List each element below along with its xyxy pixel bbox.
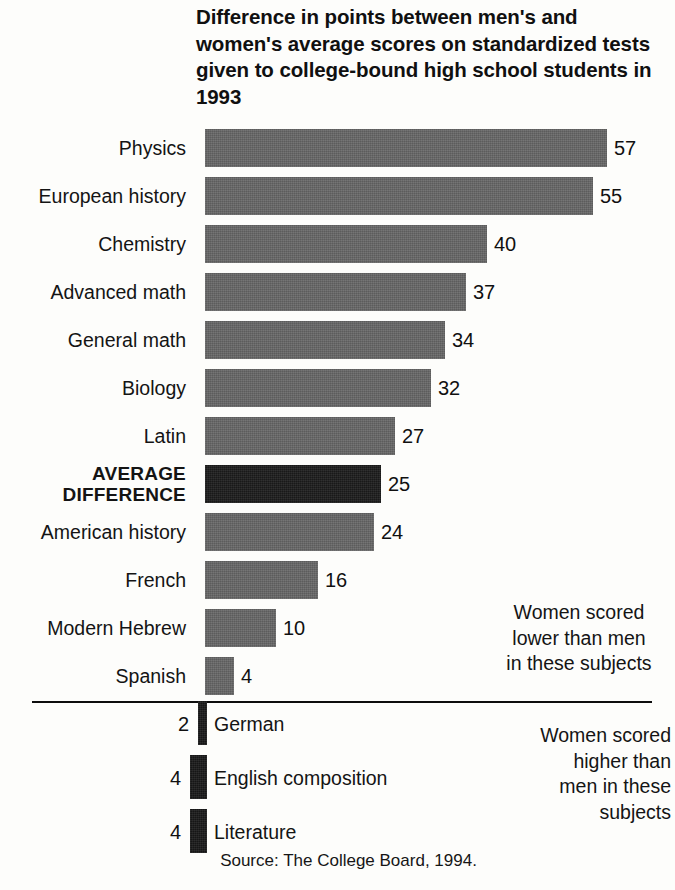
bar-advanced-math [205,273,466,311]
bar-label-general-math: General math [0,316,196,364]
bar-label-average-difference: AVERAGE DIFFERENCE [0,460,196,508]
chart-row-biology: Biology 32 [0,364,675,412]
bar-label-average-difference-line1: AVERAGE [92,463,186,484]
bar-value-general-math: 34 [452,316,474,364]
page-title: Difference in points between men's and w… [196,4,666,110]
annotation-women-scored-higher: Women scored higher than men in these su… [487,723,671,825]
chart-row-chemistry: Chemistry 40 [0,220,675,268]
bar-label-american-history: American history [0,508,196,556]
bar-physics [205,129,607,167]
bar-value-biology: 32 [438,364,460,412]
bar-value-advanced-math: 37 [473,268,495,316]
bar-label-english-composition: English composition [214,755,387,801]
bar-label-modern-hebrew: Modern Hebrew [0,604,196,652]
annotation-higher-line4: subjects [487,800,671,826]
bar-modern-hebrew [205,609,276,647]
bar-label-european-history: European history [0,172,196,220]
bar-value-spanish: 4 [241,652,252,700]
bar-label-literature: Literature [214,809,296,855]
annotation-lower-line3: in these subjects [487,651,671,677]
bar-label-latin: Latin [0,412,196,460]
bar-label-physics: Physics [0,124,196,172]
bar-label-spanish: Spanish [0,652,196,700]
bar-label-french: French [0,556,196,604]
bar-value-european-history: 55 [600,172,622,220]
bar-label-advanced-math: Advanced math [0,268,196,316]
bar-value-german: 2 [138,701,198,747]
bar-german [198,701,207,745]
annotation-higher-line3: men in these [487,774,671,800]
bar-value-physics: 57 [614,124,636,172]
chart-row-french: French 16 [0,556,675,604]
bar-european-history [205,177,593,215]
bar-average-difference [205,465,381,503]
chart-row-american-history: American history 24 [0,508,675,556]
bar-latin [205,417,395,455]
bar-value-french: 16 [325,556,347,604]
annotation-women-scored-lower: Women scored lower than men in these sub… [487,600,671,677]
chart-row-advanced-math: Advanced math 37 [0,268,675,316]
chart-row-physics: Physics 57 [0,124,675,172]
bar-english-composition [190,755,207,799]
bar-chemistry [205,225,487,263]
bar-label-average-difference-line2: DIFFERENCE [63,484,186,505]
bar-value-latin: 27 [402,412,424,460]
bar-label-chemistry: Chemistry [0,220,196,268]
bar-general-math [205,321,445,359]
bar-value-english-composition: 4 [130,755,190,801]
chart-row-latin: Latin 27 [0,412,675,460]
bar-american-history [205,513,374,551]
chart-row-european-history: European history 55 [0,172,675,220]
chart-row-general-math: General math 34 [0,316,675,364]
bar-value-average-difference: 25 [388,460,410,508]
annotation-higher-line1: Women scored [487,723,671,749]
bar-value-american-history: 24 [381,508,403,556]
annotation-lower-line1: Women scored [487,600,671,626]
bar-label-biology: Biology [0,364,196,412]
bar-biology [205,369,431,407]
bar-spanish [205,657,234,695]
bar-label-german: German [214,701,284,747]
bar-literature [190,809,207,853]
annotation-lower-line2: lower than men [487,626,671,652]
bar-french [205,561,318,599]
bar-value-literature: 4 [130,809,190,855]
bar-value-chemistry: 40 [494,220,516,268]
bar-value-modern-hebrew: 10 [283,604,305,652]
source-note: Source: The College Board, 1994. [0,851,675,871]
annotation-higher-line2: higher than [487,749,671,775]
chart-row-average-difference: AVERAGE DIFFERENCE 25 [0,460,675,508]
